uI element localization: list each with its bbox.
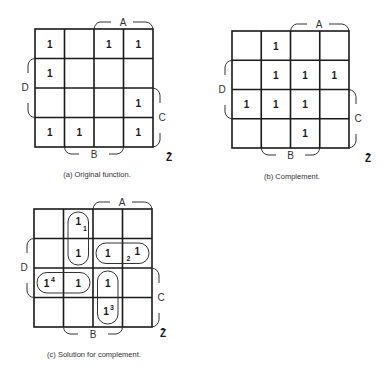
kmap-b: 1 1 1 1 1 1 1 1 A D (218, 19, 371, 182)
cell-c-r2c2: 1 (105, 278, 111, 289)
cell-c-r2c0: 1 (44, 278, 50, 289)
kmap-b-bracket-C: C (349, 90, 362, 149)
cell-a-r3c3: 1 (135, 127, 141, 138)
kmap-c-cells: 1 1 1 1 1 1 1 1 (44, 216, 141, 317)
cell-b-r2c0: 1 (244, 99, 250, 110)
kmap-b-grid (232, 31, 349, 148)
kmap-b-bracket-D: D (218, 60, 232, 119)
caption-a: (a) Original function. (63, 170, 131, 179)
label-B: B (287, 150, 294, 161)
kmap-a-bracket-D: D (21, 59, 35, 118)
kmap-a-bracket-B: B (65, 147, 124, 160)
caption-c: (c) Solution for complement. (47, 350, 141, 359)
cell-c-r1c3: 1 (134, 246, 140, 257)
label-z-complement: Z̄ (160, 328, 166, 339)
label-A: A (316, 19, 323, 30)
label-A: A (119, 197, 126, 208)
kmap-c-grid (34, 209, 152, 327)
loop-2-number: 2 (127, 255, 131, 262)
kmap-c-bracket-B: B (64, 327, 123, 340)
loop-3-number: 3 (110, 304, 114, 311)
kmap-a-bracket-A: A (94, 17, 153, 30)
cell-a-r0c2: 1 (106, 39, 112, 50)
kmap-b-bracket-B: B (261, 148, 320, 161)
label-z-complement: Z̄ (166, 152, 172, 163)
loop-1-number: 1 (83, 225, 87, 232)
kmap-b-bracket-A: A (291, 19, 350, 32)
kmap-c-bracket-A: A (93, 197, 152, 210)
label-D: D (21, 82, 28, 93)
cell-b-r2c2: 1 (302, 99, 308, 110)
cell-b-r1c3: 1 (332, 70, 338, 81)
cell-c-r1c1: 1 (75, 248, 81, 259)
cell-c-r3c2: 1 (103, 306, 109, 317)
label-C: C (157, 292, 164, 303)
label-D: D (218, 84, 225, 95)
label-z-complement: Z̄ (365, 153, 371, 164)
loop-4-number: 4 (51, 276, 55, 283)
label-C: C (158, 112, 165, 123)
cell-b-r1c1: 1 (273, 70, 279, 81)
cell-a-r0c3: 1 (135, 39, 141, 50)
cell-a-r3c0: 1 (47, 127, 53, 138)
cell-b-r1c2: 1 (302, 70, 308, 81)
cell-a-r2c3: 1 (135, 98, 141, 109)
cell-c-r0c1: 1 (75, 216, 81, 227)
cell-a-r0c0: 1 (47, 39, 53, 50)
label-B: B (91, 149, 98, 160)
caption-b: (b) Complement. (264, 172, 320, 181)
karnaugh-map-figure: 1 1 1 1 1 1 1 1 A D (0, 0, 390, 370)
kmap-c-bracket-C: C (152, 268, 165, 327)
kmap-c: 1 1 1 1 1 1 1 1 1 2 3 4 A (20, 197, 166, 360)
label-C: C (354, 113, 361, 124)
cell-b-r3c2: 1 (302, 128, 308, 139)
cell-c-r2c1: 1 (75, 278, 81, 289)
label-A: A (120, 17, 127, 28)
label-B: B (90, 329, 97, 340)
cell-b-r2c1: 1 (273, 99, 279, 110)
cell-a-r3c1: 1 (76, 127, 82, 138)
kmap-a: 1 1 1 1 1 1 1 1 A D (21, 17, 172, 180)
label-D: D (20, 262, 27, 273)
kmap-a-bracket-C: C (153, 88, 166, 147)
cell-c-r1c2: 1 (105, 248, 111, 259)
cell-a-r1c0: 1 (47, 68, 53, 79)
kmap-c-bracket-D: D (20, 239, 34, 298)
cell-b-r0c1: 1 (273, 41, 279, 52)
